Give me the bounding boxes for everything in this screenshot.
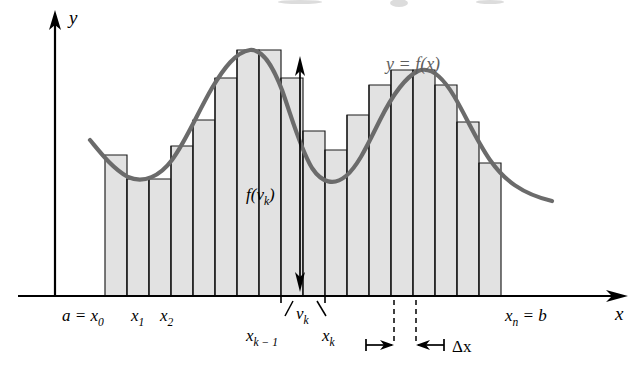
table-row xyxy=(259,50,281,296)
table-row xyxy=(171,146,193,296)
table-row xyxy=(347,115,369,296)
tick-label-vk: vk xyxy=(296,304,310,326)
left-endpoint-label: a = x0 xyxy=(62,306,104,328)
table-row xyxy=(391,70,413,296)
table-row xyxy=(237,50,259,296)
vk-right-slash xyxy=(317,301,326,316)
table-row xyxy=(149,179,171,296)
tick-label-x1: x1 xyxy=(130,306,144,328)
delta-x-group: Δx xyxy=(366,300,472,356)
table-row xyxy=(479,163,501,296)
tick-label-xk: xk xyxy=(321,326,336,348)
riemann-sum-figure: Δx y x y = f(x) f(vk) a = x0 x1 x2 vk xk… xyxy=(0,0,644,380)
table-row xyxy=(413,70,435,296)
figure-canvas: Δx y x y = f(x) f(vk) a = x0 x1 x2 vk xk… xyxy=(0,0,644,380)
table-row xyxy=(127,179,149,296)
table-row xyxy=(457,122,479,296)
tick-label-x2: x2 xyxy=(159,306,174,328)
table-row xyxy=(325,150,347,296)
table-row xyxy=(193,120,215,296)
vk-left-slash xyxy=(285,301,293,316)
y-axis-label: y xyxy=(67,7,78,28)
x-axis-label: x xyxy=(614,303,624,324)
table-row xyxy=(215,78,237,296)
tick-label-xk-minus-1: xk − 1 xyxy=(245,326,278,348)
scan-artifact-group xyxy=(278,0,504,7)
delta-x-label: Δx xyxy=(452,337,472,356)
right-endpoint-label: xn = b xyxy=(504,306,547,328)
curve-equation-label: y = f(x) xyxy=(384,54,440,75)
table-row xyxy=(435,85,457,296)
height-label: f(vk) xyxy=(246,185,275,207)
